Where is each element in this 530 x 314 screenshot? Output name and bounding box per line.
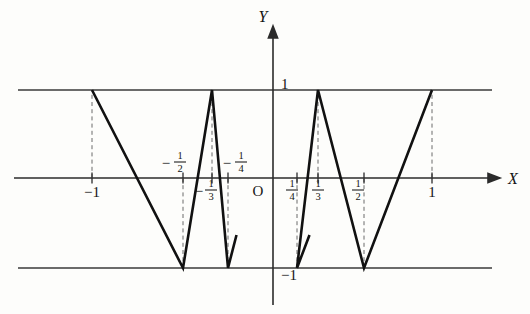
x-tick-label-neg-1-2: − 1 2 [162,150,186,174]
minus-sign: − [223,155,231,171]
x-tick-label-pos-1-4: 1 4 [286,178,298,202]
fraction-numerator: 1 [208,178,213,189]
x-axis-arrow [488,173,500,182]
curve-left-branch [92,90,237,268]
y-axis-arrow [268,26,277,38]
function-plot: Y X O 1 −1 −1 − 1 2 − 1 3 − 1 4 [0,0,530,314]
y-tick-label-1: 1 [281,76,289,92]
minus-sign: − [195,183,203,199]
x-axis-label: X [507,170,519,187]
y-axis-label: Y [259,8,270,25]
x-tick-label-pos-1-2: 1 2 [352,178,364,202]
minus-sign: − [162,155,170,171]
fraction-numerator: 1 [355,178,360,189]
y-tick-label-neg-1: −1 [281,267,297,283]
x-tick-label-pos-1-3: 1 3 [312,178,324,202]
x-tick-label-neg-1: −1 [84,184,100,200]
figure-canvas: Y X O 1 −1 −1 − 1 2 − 1 3 − 1 4 [0,0,530,314]
x-tick-label-pos-1: 1 [428,184,436,200]
fraction-denominator: 2 [355,191,360,202]
fraction-denominator: 3 [208,191,213,202]
fraction-denominator: 4 [238,163,244,174]
origin-label: O [253,183,264,199]
fraction-denominator: 3 [315,191,320,202]
fraction-numerator: 1 [177,150,182,161]
x-tick-label-neg-1-4: − 1 4 [223,150,247,174]
fraction-numerator: 1 [315,178,320,189]
fraction-denominator: 4 [289,191,295,202]
fraction-denominator: 2 [177,163,182,174]
fraction-numerator: 1 [238,150,243,161]
fraction-numerator: 1 [289,178,294,189]
